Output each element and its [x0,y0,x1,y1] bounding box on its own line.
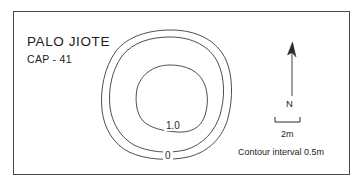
contour-interval-note: Contour interval 0.5m [238,147,324,157]
map-figure: PALO JIOTE CAP - 41 1.0 0 N 2m Contour i… [0,0,364,185]
contour-label-outer: 0 [163,150,173,161]
scale-bar-label: 2m [281,129,294,139]
map-vector-layer [0,0,364,185]
site-name-label: PALO JIOTE [27,34,110,49]
site-code-label: CAP - 41 [27,53,72,65]
contour-label-inner: 1.0 [164,120,182,131]
contour-ring-middle [110,37,224,152]
north-arrow-label: N [286,98,293,109]
contour-ring-outer [102,30,232,159]
